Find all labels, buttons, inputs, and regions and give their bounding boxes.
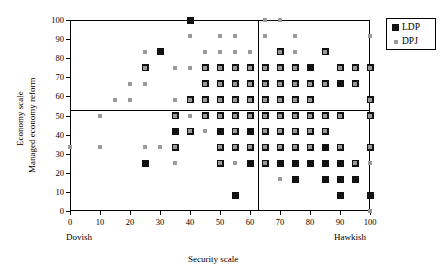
legend-label-dpj: DPJ [402, 37, 418, 47]
data-point-ldp [157, 48, 164, 55]
data-point-dpj [233, 66, 237, 70]
data-point-dpj [98, 114, 102, 118]
y-tick-mark [66, 211, 70, 212]
x-tick-label: 90 [325, 218, 355, 227]
data-point-dpj [308, 114, 312, 118]
data-point-dpj [353, 161, 357, 165]
data-point-ldp [322, 144, 329, 151]
data-point-dpj [203, 82, 207, 86]
data-point-dpj [248, 66, 252, 70]
data-point-ldp [307, 160, 314, 167]
y-tick-label: 40 [44, 131, 64, 140]
data-point-dpj [368, 209, 372, 213]
data-point-dpj [368, 161, 372, 165]
x-tick-mark [310, 211, 311, 215]
y-axis-title-line1: Economy scale [16, 91, 25, 146]
data-point-dpj [263, 161, 267, 165]
data-point-dpj [233, 145, 237, 149]
x-tick-label: 60 [235, 218, 265, 227]
data-point-dpj [203, 114, 207, 118]
data-point-dpj [308, 145, 312, 149]
data-point-dpj [278, 129, 282, 133]
x-axis-low-label: Dovish [66, 233, 92, 242]
x-tick-mark [130, 211, 131, 215]
data-point-dpj [263, 98, 267, 102]
y-tick-label: 80 [44, 54, 64, 63]
data-point-dpj [323, 129, 327, 133]
data-point-dpj [323, 82, 327, 86]
data-point-dpj [293, 98, 297, 102]
data-point-ldp [292, 176, 299, 183]
data-point-dpj [188, 129, 192, 133]
data-point-dpj [248, 114, 252, 118]
data-point-dpj [143, 50, 147, 54]
data-point-ldp [187, 17, 194, 24]
legend-swatch-dpj-icon [394, 40, 398, 44]
data-point-dpj [203, 66, 207, 70]
x-tick-mark [100, 211, 101, 215]
y-tick-label: 90 [44, 35, 64, 44]
data-point-ldp [247, 160, 254, 167]
x-tick-mark [340, 211, 341, 215]
data-point-dpj [293, 129, 297, 133]
data-point-ldp [307, 64, 314, 71]
data-point-dpj [173, 145, 177, 149]
data-point-dpj [308, 129, 312, 133]
data-point-ldp [142, 160, 149, 167]
legend-label-ldp: LDP [402, 23, 420, 33]
y-tick-mark [66, 77, 70, 78]
data-point-dpj [263, 82, 267, 86]
data-point-dpj [143, 66, 147, 70]
data-point-dpj [128, 98, 132, 102]
data-point-dpj [308, 82, 312, 86]
data-point-dpj [293, 66, 297, 70]
data-point-dpj [353, 66, 357, 70]
x-tick-mark [250, 211, 251, 215]
data-point-dpj [233, 82, 237, 86]
y-tick-label: 20 [44, 169, 64, 178]
data-point-dpj [113, 98, 117, 102]
horizontal-reference-line [70, 110, 370, 111]
data-point-ldp [322, 176, 329, 183]
x-tick-label: 100 [355, 218, 385, 227]
data-point-ldp [367, 192, 374, 199]
data-point-ldp [292, 160, 299, 167]
data-point-dpj [203, 50, 207, 54]
data-point-dpj [233, 34, 237, 38]
y-tick-label: 70 [44, 73, 64, 82]
data-point-dpj [338, 66, 342, 70]
data-point-dpj [278, 98, 282, 102]
y-tick-mark [66, 192, 70, 193]
x-tick-label: 30 [145, 218, 175, 227]
data-point-dpj [173, 161, 177, 165]
legend: LDP DPJ [386, 18, 436, 50]
y-tick-mark [66, 39, 70, 40]
y-tick-mark [66, 96, 70, 97]
data-point-dpj [338, 145, 342, 149]
x-tick-label: 70 [265, 218, 295, 227]
data-point-dpj [203, 98, 207, 102]
data-point-dpj [368, 98, 372, 102]
data-point-dpj [263, 114, 267, 118]
data-point-dpj [293, 50, 297, 54]
x-tick-mark [70, 211, 71, 215]
data-point-dpj [368, 145, 372, 149]
data-point-dpj [248, 82, 252, 86]
data-point-dpj [233, 98, 237, 102]
data-point-dpj [293, 145, 297, 149]
data-point-dpj [248, 50, 252, 54]
x-tick-label: 0 [55, 218, 85, 227]
data-point-dpj [293, 82, 297, 86]
data-point-dpj [98, 145, 102, 149]
data-point-dpj [278, 177, 282, 181]
x-tick-label: 40 [175, 218, 205, 227]
y-tick-label: 60 [44, 92, 64, 101]
data-point-dpj [323, 50, 327, 54]
data-point-ldp [232, 192, 239, 199]
x-tick-mark [280, 211, 281, 215]
y-tick-label: 10 [44, 188, 64, 197]
x-tick-mark [190, 211, 191, 215]
y-tick-mark [66, 116, 70, 117]
data-point-dpj [143, 145, 147, 149]
y-tick-label: 50 [44, 112, 64, 121]
